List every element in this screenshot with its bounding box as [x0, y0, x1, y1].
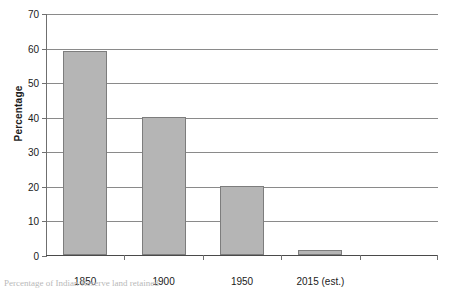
y-tick-mark-60 [42, 49, 47, 50]
y-tick-mark-40 [42, 118, 47, 119]
y-tick-mark-10 [42, 221, 47, 222]
bar-chart-figure: Percentage 01020304050607018501900195020… [0, 0, 455, 276]
y-axis-title: Percentage [13, 74, 24, 154]
bar-1950[interactable] [220, 186, 264, 255]
y-tick-label-20: 20 [28, 181, 39, 192]
bar-1850[interactable] [63, 51, 107, 255]
y-tick-label-40: 40 [28, 112, 39, 123]
y-tick-mark-30 [42, 152, 47, 153]
figure-caption-text: Percentage of Indian Reserve land retain… [4, 279, 159, 288]
figure-caption-clipped: Percentage of Indian Reserve land retain… [0, 279, 455, 291]
bar-2015 (est.)[interactable] [298, 250, 342, 255]
y-tick-label-60: 60 [28, 43, 39, 54]
x-tick-mark-2 [203, 255, 204, 260]
y-tick-mark-20 [42, 187, 47, 188]
gridline-60 [46, 49, 438, 50]
x-axis-line [46, 255, 438, 256]
y-tick-label-30: 30 [28, 147, 39, 158]
y-tick-mark-70 [42, 14, 47, 15]
plot-area: 0102030405060701850190019502015 (est.) [46, 14, 438, 256]
x-tick-mark-end [437, 255, 438, 260]
y-tick-label-0: 0 [33, 251, 39, 262]
x-tick-mark-1 [124, 255, 125, 260]
y-tick-label-10: 10 [28, 216, 39, 227]
screenshot-root: Percentage 01020304050607018501900195020… [0, 0, 455, 291]
y-tick-mark-0 [42, 256, 47, 257]
x-tick-mark-4 [360, 255, 361, 260]
gridline-70 [46, 14, 438, 15]
y-tick-label-50: 50 [28, 78, 39, 89]
y-tick-mark-50 [42, 83, 47, 84]
bar-1900[interactable] [142, 117, 186, 255]
y-tick-label-70: 70 [28, 9, 39, 20]
x-tick-mark-3 [281, 255, 282, 260]
